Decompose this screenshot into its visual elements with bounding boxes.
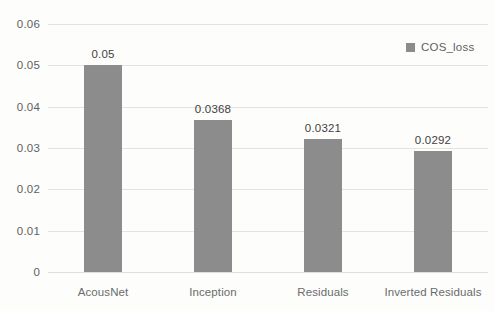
bar-residuals[interactable] bbox=[304, 139, 342, 272]
y-axis-tick-label: 0 bbox=[33, 266, 40, 278]
gridline bbox=[48, 272, 488, 273]
bar-group: 0.0292Inverted Residuals bbox=[378, 24, 488, 272]
bar-group: 0.0321Residuals bbox=[268, 24, 378, 272]
x-axis-category-label: AcousNet bbox=[78, 286, 129, 298]
bar-group: 0.0368Inception bbox=[158, 24, 268, 272]
legend-swatch-cos-loss bbox=[406, 43, 415, 52]
bar-value-label: 0.05 bbox=[91, 48, 114, 60]
bar-value-label: 0.0368 bbox=[195, 103, 231, 115]
chart-legend: COS_loss bbox=[406, 41, 474, 53]
bar-inception[interactable] bbox=[194, 120, 232, 272]
bar-value-label: 0.0321 bbox=[305, 122, 341, 134]
bar-value-label: 0.0292 bbox=[415, 134, 451, 146]
x-axis-category-label: Residuals bbox=[297, 286, 348, 298]
bar-inverted-residuals[interactable] bbox=[414, 151, 452, 272]
y-axis-tick-label: 0.02 bbox=[17, 183, 40, 195]
bar-acousnet[interactable] bbox=[84, 65, 122, 272]
x-axis-category-label: Inverted Residuals bbox=[384, 286, 481, 298]
legend-label-cos-loss: COS_loss bbox=[421, 41, 474, 53]
x-axis-category-label: Inception bbox=[189, 286, 237, 298]
y-axis-tick-label: 0.05 bbox=[17, 59, 40, 71]
y-axis-tick-label: 0.06 bbox=[17, 18, 40, 30]
y-axis-tick-label: 0.01 bbox=[17, 225, 40, 237]
y-axis-tick-label: 0.03 bbox=[17, 142, 40, 154]
bar-group: 0.05AcousNet bbox=[48, 24, 158, 272]
y-axis-tick-label: 0.04 bbox=[17, 101, 40, 113]
bar-chart: 0.060.050.040.030.020.010 0.05AcousNet0.… bbox=[0, 0, 495, 311]
plot-area: 0.060.050.040.030.020.010 0.05AcousNet0.… bbox=[48, 24, 488, 272]
